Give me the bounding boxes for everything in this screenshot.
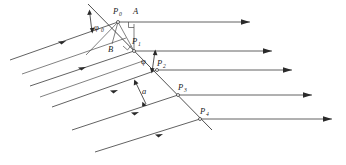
incident-ray-4 <box>95 119 200 152</box>
angle-phi0-subscript: 0 <box>101 27 104 33</box>
outgoing-ray-2-arrowhead <box>283 67 292 73</box>
label-p2-subscript: 2 <box>163 63 166 69</box>
angle-phi0-arrowhead-top <box>87 10 92 16</box>
incident-ray-2-arrowhead <box>110 90 118 94</box>
ray-diagram-canvas: φ 0 P 0 A P 1 B φ P 2 a P 3 P 4 <box>0 0 346 165</box>
label-p0: P <box>112 6 118 16</box>
label-p1-subscript: 1 <box>138 41 141 47</box>
labels-group: φ 0 P 0 A P 1 B φ P 2 a P 3 P 4 <box>94 6 209 117</box>
incident-rays-group <box>10 22 200 152</box>
boundary-line <box>88 4 212 130</box>
outgoing-ray-1-arrowhead <box>263 48 272 54</box>
incident-ray-3 <box>72 95 178 130</box>
node-dot-p1 <box>133 50 136 53</box>
node-dot-p0 <box>117 21 120 24</box>
outgoing-ray-4-arrowhead <box>323 116 332 122</box>
boundary-group <box>88 4 212 130</box>
right-angle-mark-a <box>129 22 135 28</box>
node-dots-group <box>117 21 202 121</box>
angle-phi-arrowhead-top <box>153 50 158 56</box>
spacing-a-arrowhead-top <box>134 80 139 86</box>
node-dot-p2 <box>156 69 159 72</box>
label-p1: P <box>131 36 137 46</box>
label-segment-a: A <box>132 6 139 16</box>
angle-phi0-label: φ <box>94 22 99 32</box>
label-p4-subscript: 4 <box>206 111 209 117</box>
label-p3: P <box>177 82 183 92</box>
label-segment-b: B <box>108 44 113 54</box>
incident-ray-1-arrowhead <box>78 67 86 71</box>
incident-ray-3-arrowhead <box>131 112 139 116</box>
label-p0-subscript: 0 <box>119 11 122 17</box>
ray-diagram-figure: φ 0 P 0 A P 1 B φ P 2 a P 3 P 4 <box>0 0 346 165</box>
label-p4: P <box>199 106 205 116</box>
label-spacing-a: a <box>142 86 146 96</box>
node-dot-p3 <box>177 94 180 97</box>
node-dot-p4 <box>199 118 202 121</box>
label-p2: P <box>156 58 162 68</box>
label-p3-subscript: 3 <box>183 87 187 93</box>
construction-group <box>22 22 143 97</box>
outgoing-ray-0-arrowhead <box>241 19 250 25</box>
step-band-lower-edge <box>40 61 143 97</box>
outgoing-ray-3-arrowhead <box>303 92 312 98</box>
angle-phi-label: φ <box>141 56 146 66</box>
incident-ray-4-arrowhead <box>155 134 163 138</box>
outgoing-rays-group <box>118 19 332 122</box>
